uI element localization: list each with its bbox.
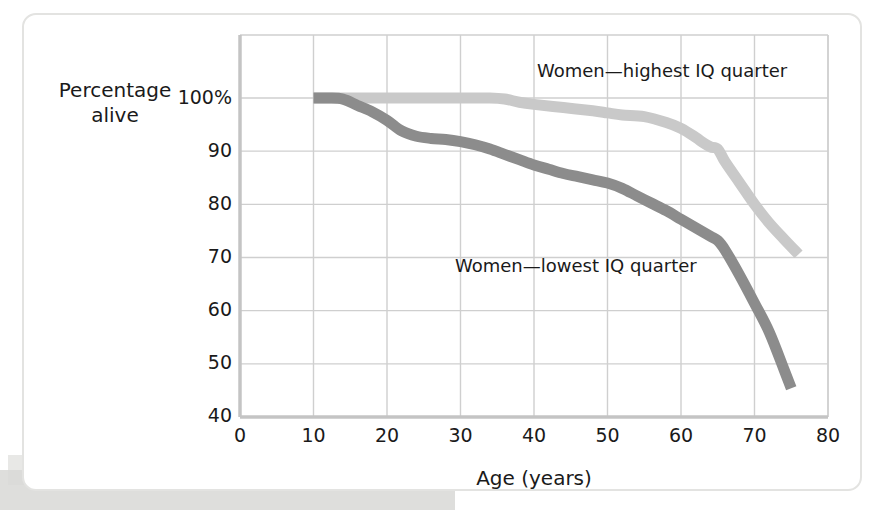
series-label-lowest-iq: Women—lowest IQ quarter (455, 255, 697, 276)
x-tick-label: 80 (803, 424, 853, 446)
series-lines (314, 98, 799, 388)
series-line-lowest-iq (314, 98, 792, 388)
x-tick-label: 60 (656, 424, 706, 446)
figure-page: Percentage alive 100% 90 80 70 60 50 40 … (0, 0, 880, 523)
x-tick-label: 50 (583, 424, 633, 446)
x-tick-label: 10 (289, 424, 339, 446)
chart-figure: Percentage alive 100% 90 80 70 60 50 40 … (0, 0, 880, 523)
x-tick-label: 0 (215, 424, 265, 446)
grid-lines (240, 35, 828, 417)
series-label-highest-iq: Women—highest IQ quarter (537, 60, 787, 81)
x-tick-label: 30 (436, 424, 486, 446)
x-tick-label: 70 (730, 424, 780, 446)
x-tick-label: 40 (509, 424, 559, 446)
x-axis-title: Age (years) (240, 466, 828, 490)
x-tick-label: 20 (362, 424, 412, 446)
